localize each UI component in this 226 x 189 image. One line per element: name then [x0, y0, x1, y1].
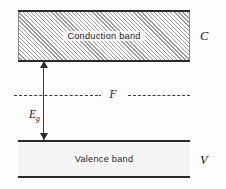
band-gap-arrow-shaft — [43, 62, 44, 140]
band-diagram-figure: Conduction band C F Eg Valence band V — [0, 0, 226, 189]
valence-band-box: Valence band — [18, 140, 190, 178]
conduction-band-label: Conduction band — [63, 31, 144, 41]
band-gap-arrow-head-down — [40, 133, 48, 140]
conduction-band-side-label: C — [200, 29, 208, 44]
band-gap-label: Eg — [29, 108, 40, 123]
valence-band-label: Valence band — [71, 154, 138, 164]
band-gap-subscript: g — [36, 114, 40, 123]
conduction-band-box: Conduction band — [18, 10, 190, 62]
valence-band-side-label: V — [200, 153, 208, 168]
conduction-band-label-wrap: Conduction band — [18, 31, 190, 41]
valence-band-label-wrap: Valence band — [18, 154, 190, 164]
fermi-level-line-right — [128, 95, 190, 96]
fermi-level-line-left — [14, 95, 98, 96]
fermi-level-label: F — [100, 88, 126, 100]
band-gap-arrow-head-up — [40, 61, 48, 68]
band-gap-symbol: E — [29, 108, 36, 120]
